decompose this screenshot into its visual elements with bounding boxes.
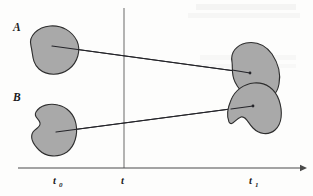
time-axis-arrowhead [300, 165, 307, 171]
motion-line-B-endpoint [252, 105, 255, 108]
label-A: A [12, 21, 21, 33]
tick-t0-subscript: 0 [59, 181, 63, 189]
tick-t: t [121, 175, 125, 186]
tick-t1: t 1 [249, 175, 259, 189]
figure-root: A B t 0 t t 1 [0, 0, 313, 196]
blob-A-initial [30, 26, 78, 74]
motion-line-A-endpoint [249, 72, 252, 75]
evolution-diagram: A B t 0 t t 1 [0, 0, 313, 196]
tick-t-base: t [121, 175, 125, 186]
tick-t1-base: t [249, 175, 253, 186]
tick-t0-base: t [53, 175, 57, 186]
tick-t1-subscript: 1 [255, 181, 259, 189]
motion-line-B-head [56, 106, 253, 132]
tick-t0: t 0 [53, 175, 63, 189]
label-B: B [12, 91, 21, 103]
